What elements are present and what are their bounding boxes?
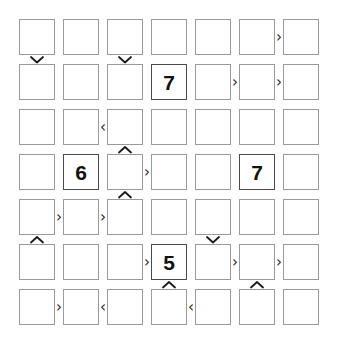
h-constraint-less-than-r7-c2: ‹	[99, 298, 108, 316]
h-constraint-greater-than-r7-c1: ›	[55, 298, 64, 316]
grid-cell-r7-c6[interactable]	[239, 289, 275, 325]
grid-cell-r1-c4[interactable]	[151, 19, 187, 55]
grid-cell-r4-c4[interactable]	[151, 154, 187, 190]
v-constraint-greater-than-r1-c1	[28, 55, 46, 64]
grid-cell-r1-c5[interactable]	[195, 19, 231, 55]
grid-cell-r6-c7[interactable]	[283, 244, 319, 280]
futoshiki-puzzle-grid: 7675›››‹›››››››‹‹	[0, 0, 341, 357]
grid-cell-r2-c6[interactable]	[239, 64, 275, 100]
grid-cell-r6-c2[interactable]	[63, 244, 99, 280]
grid-cell-r5-c1[interactable]	[19, 199, 55, 235]
grid-cell-r2-c7[interactable]	[283, 64, 319, 100]
grid-cell-r1-c7[interactable]	[283, 19, 319, 55]
grid-cell-r2-c4[interactable]: 7	[151, 64, 187, 100]
grid-cell-r7-c5[interactable]	[195, 289, 231, 325]
v-constraint-less-than-r4-c3	[116, 190, 134, 199]
grid-cell-r3-c2[interactable]	[63, 109, 99, 145]
grid-cell-r5-c5[interactable]	[195, 199, 231, 235]
grid-cell-r3-c5[interactable]	[195, 109, 231, 145]
v-constraint-less-than-r3-c3	[116, 145, 134, 154]
v-constraint-less-than-r6-c6	[248, 280, 266, 289]
grid-cell-r5-c6[interactable]	[239, 199, 275, 235]
h-constraint-greater-than-r2-c5: ›	[231, 73, 240, 91]
cell-value-r6-c4: 5	[163, 252, 175, 273]
grid-cell-r7-c1[interactable]	[19, 289, 55, 325]
grid-cell-r6-c5[interactable]	[195, 244, 231, 280]
grid-cell-r5-c2[interactable]	[63, 199, 99, 235]
grid-cell-r3-c1[interactable]	[19, 109, 55, 145]
grid-cell-r7-c2[interactable]	[63, 289, 99, 325]
cell-value-r2-c4: 7	[163, 72, 175, 93]
grid-cell-r7-c7[interactable]	[283, 289, 319, 325]
grid-cell-r6-c3[interactable]	[107, 244, 143, 280]
grid-cell-r4-c3[interactable]	[107, 154, 143, 190]
v-constraint-greater-than-r5-c5	[204, 235, 222, 244]
grid-cell-r1-c6[interactable]	[239, 19, 275, 55]
grid-cell-r6-c6[interactable]	[239, 244, 275, 280]
grid-cell-r4-c6[interactable]: 7	[239, 154, 275, 190]
grid-cell-r1-c1[interactable]	[19, 19, 55, 55]
h-constraint-less-than-r7-c4: ‹	[187, 298, 196, 316]
grid-cell-r7-c4[interactable]	[151, 289, 187, 325]
v-constraint-less-than-r6-c4	[160, 280, 178, 289]
grid-cell-r4-c7[interactable]	[283, 154, 319, 190]
grid-cell-r2-c1[interactable]	[19, 64, 55, 100]
grid-cell-r2-c5[interactable]	[195, 64, 231, 100]
grid-cell-r3-c6[interactable]	[239, 109, 275, 145]
cell-value-r4-c2: 6	[75, 162, 87, 183]
grid-cell-r3-c7[interactable]	[283, 109, 319, 145]
grid-cell-r6-c1[interactable]	[19, 244, 55, 280]
h-constraint-less-than-r3-c2: ‹	[99, 118, 108, 136]
cell-value-r4-c6: 7	[251, 162, 263, 183]
h-constraint-greater-than-r1-c6: ›	[275, 28, 284, 46]
h-constraint-greater-than-r5-c1: ›	[55, 208, 64, 226]
h-constraint-greater-than-r6-c6: ›	[275, 253, 284, 271]
grid-cell-r2-c2[interactable]	[63, 64, 99, 100]
v-constraint-greater-than-r1-c3	[116, 55, 134, 64]
h-constraint-greater-than-r6-c3: ›	[143, 253, 152, 271]
grid-cell-r1-c2[interactable]	[63, 19, 99, 55]
h-constraint-greater-than-r4-c3: ›	[143, 163, 152, 181]
grid-cell-r7-c3[interactable]	[107, 289, 143, 325]
grid-cell-r4-c2[interactable]: 6	[63, 154, 99, 190]
grid-cell-r4-c1[interactable]	[19, 154, 55, 190]
grid-cell-r5-c4[interactable]	[151, 199, 187, 235]
grid-cell-r5-c7[interactable]	[283, 199, 319, 235]
v-constraint-less-than-r5-c1	[28, 235, 46, 244]
grid-cell-r4-c5[interactable]	[195, 154, 231, 190]
grid-cell-r1-c3[interactable]	[107, 19, 143, 55]
h-constraint-greater-than-r5-c2: ›	[99, 208, 108, 226]
grid-cell-r3-c3[interactable]	[107, 109, 143, 145]
grid-cell-r3-c4[interactable]	[151, 109, 187, 145]
grid-cell-r5-c3[interactable]	[107, 199, 143, 235]
h-constraint-greater-than-r6-c5: ›	[231, 253, 240, 271]
grid-cell-r6-c4[interactable]: 5	[151, 244, 187, 280]
grid-cell-r2-c3[interactable]	[107, 64, 143, 100]
h-constraint-greater-than-r2-c6: ›	[275, 73, 284, 91]
